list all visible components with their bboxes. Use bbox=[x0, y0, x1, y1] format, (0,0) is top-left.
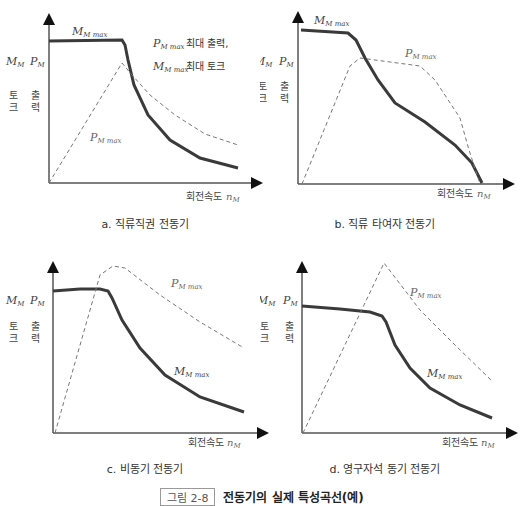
svg-text:크: 크 bbox=[260, 333, 269, 344]
figure-number: 그림 2-8 bbox=[160, 488, 215, 506]
caption-d: d. 영구자석 동기 전동기 bbox=[300, 460, 470, 476]
power-curve bbox=[49, 63, 238, 183]
caption-a: a. 직류직권 전동기 bbox=[60, 215, 230, 231]
svg-text:PM max: PM max bbox=[89, 131, 122, 145]
svg-text:PM: PM bbox=[29, 294, 45, 308]
chart-c: MM PM 토 크 출 력 PM max MM max 회전속도 nM bbox=[0, 250, 270, 450]
svg-text:PM: PM bbox=[29, 55, 45, 69]
svg-text:MM max: MM max bbox=[71, 25, 107, 39]
svg-text:nM: nM bbox=[481, 437, 495, 450]
svg-text:nM: nM bbox=[477, 188, 491, 201]
figure-caption: 그림 2-8전동기의 실제 특성곡선(예) bbox=[160, 488, 364, 506]
svg-text:력: 력 bbox=[280, 93, 289, 104]
svg-text:MM max: MM max bbox=[152, 60, 188, 74]
svg-text:회전속도: 회전속도 bbox=[442, 437, 478, 448]
svg-text:MM: MM bbox=[260, 294, 276, 308]
svg-text:력: 력 bbox=[31, 102, 40, 113]
svg-text:회전속도: 회전속도 bbox=[188, 437, 224, 448]
svg-text:출: 출 bbox=[31, 321, 40, 332]
power-curve bbox=[302, 58, 480, 184]
svg-text:nM: nM bbox=[226, 191, 240, 204]
power-curve bbox=[55, 266, 244, 433]
svg-text:MM max: MM max bbox=[313, 14, 349, 28]
svg-text:크: 크 bbox=[9, 333, 18, 344]
svg-text:PM max: PM max bbox=[170, 277, 203, 291]
svg-text:PM: PM bbox=[282, 294, 298, 308]
svg-text:nM: nM bbox=[227, 437, 241, 450]
svg-text:토: 토 bbox=[260, 321, 269, 332]
caption-c: c. 비동기 전동기 bbox=[60, 460, 230, 476]
torque-curve bbox=[302, 306, 492, 418]
svg-text:토: 토 bbox=[9, 90, 18, 101]
svg-text:크: 크 bbox=[260, 93, 267, 104]
svg-text:력: 력 bbox=[31, 333, 40, 344]
svg-text:력: 력 bbox=[285, 333, 294, 344]
svg-text:토: 토 bbox=[9, 321, 18, 332]
caption-b: b. 직류 타여자 전동기 bbox=[300, 215, 470, 231]
chart-d: MM PM 토 크 출 력 PM max MM max 회전속도 nM bbox=[260, 250, 522, 450]
legend: PM max 최대 출력, MM max 최대 토크 bbox=[152, 37, 228, 74]
svg-text:PM: PM bbox=[278, 55, 294, 69]
svg-text:크: 크 bbox=[9, 102, 18, 113]
svg-text:출: 출 bbox=[285, 321, 294, 332]
svg-text:MM max: MM max bbox=[426, 367, 462, 381]
svg-text:MM: MM bbox=[260, 55, 273, 69]
svg-text:PM max: PM max bbox=[404, 47, 437, 61]
svg-text:최대 출력,: 최대 출력, bbox=[186, 38, 228, 49]
svg-text:출: 출 bbox=[280, 81, 289, 92]
svg-text:PM max: PM max bbox=[152, 37, 185, 51]
torque-curve bbox=[49, 40, 238, 168]
chart-b: MM PM 토 크 출 력 MM max PM max 회전속도 nM bbox=[260, 0, 522, 205]
torque-curve bbox=[53, 289, 244, 412]
svg-text:MM: MM bbox=[5, 294, 25, 308]
svg-text:토: 토 bbox=[260, 81, 267, 92]
svg-text:MM: MM bbox=[5, 55, 25, 69]
svg-text:MM max: MM max bbox=[173, 365, 209, 379]
torque-curve bbox=[301, 30, 482, 183]
svg-text:회전속도: 회전속도 bbox=[437, 188, 473, 199]
svg-text:회전속도: 회전속도 bbox=[186, 191, 222, 202]
svg-text:출: 출 bbox=[31, 90, 40, 101]
svg-text:최대 토크: 최대 토크 bbox=[186, 61, 225, 72]
figure-title: 전동기의 실제 특성곡선(예) bbox=[223, 491, 363, 505]
svg-text:PM max: PM max bbox=[409, 286, 442, 300]
chart-a: MM PM 토 크 출 력 MM max PM max PM max 최대 출력… bbox=[0, 0, 270, 205]
